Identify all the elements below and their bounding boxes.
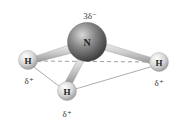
nitrogen-charge-label: 3δ⁻ [83,11,97,21]
dashed-base-line [30,61,157,62]
hydrogen-atom-left: H [19,51,38,70]
hydrogen-right-charge-label: δ⁺ [154,78,163,88]
hydrogen-atom-right: H [150,53,169,72]
base-line-right [72,65,157,90]
hydrogen-left-symbol: H [24,56,31,66]
nitrogen-atom: N [68,23,107,62]
ammonia-molecule-diagram: N 3δ⁻ H δ⁺ H δ⁺ H δ⁺ [0,0,191,123]
hydrogen-atom-bottom: H [58,82,77,101]
hydrogen-bottom-charge-label: δ⁺ [62,109,71,119]
hydrogen-right-symbol: H [155,58,162,68]
hydrogen-left-charge-label: δ⁺ [24,76,33,86]
hydrogen-bottom-symbol: H [63,87,70,97]
nitrogen-symbol: N [83,37,91,48]
